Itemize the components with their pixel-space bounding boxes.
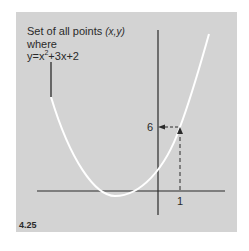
- curve-caption: Set of all points (x,y) where y=x2+3x+2: [27, 25, 125, 62]
- x-tick-label: 1: [177, 195, 183, 207]
- point-notation: (x,y): [105, 26, 124, 37]
- arrow-left-icon: [158, 125, 165, 130]
- caption-line-2: where: [27, 38, 125, 50]
- y-tick-label: 6: [147, 121, 153, 133]
- equation-suffix: +3x+2: [48, 50, 79, 62]
- equation: y=x2+3x+2: [27, 50, 125, 62]
- caption-line-1: Set of all points (x,y): [27, 25, 125, 38]
- caption-text: Set of all points: [27, 25, 102, 37]
- equation-prefix: y=x: [27, 50, 44, 62]
- figure-number: 4.25: [19, 220, 37, 230]
